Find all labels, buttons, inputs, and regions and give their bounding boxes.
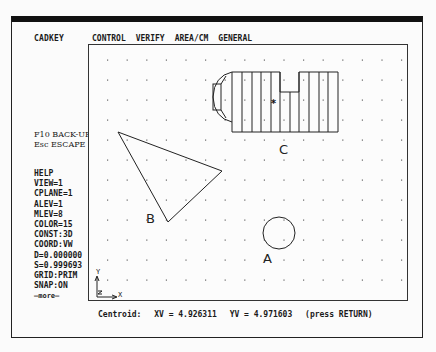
axis-x-label: X: [118, 291, 123, 299]
axis-triad-icon: [95, 276, 117, 299]
drawing-canvas: * A B C Y X: [0, 0, 436, 352]
prompt-label: Centroid:: [98, 310, 141, 319]
grid-dots: [107, 60, 402, 281]
label-a: A: [263, 251, 272, 266]
shape-a-circle: [263, 217, 295, 249]
prompt-line: Centroid: XV = 4.926311 YV = 4.971603 (p…: [98, 310, 381, 319]
shape-c-outline: [232, 72, 338, 132]
label-b: B: [146, 211, 155, 226]
centroid-yv: YV = 4.971603: [230, 310, 293, 319]
axis-y-label: Y: [96, 268, 101, 276]
centroid-xv: XV = 4.926311: [154, 310, 217, 319]
press-return-hint: (press RETURN): [305, 310, 372, 319]
label-c: C: [279, 142, 288, 157]
shape-c-arc: [213, 72, 232, 122]
centroid-marker-icon: *: [270, 98, 276, 109]
shape-b-triangle: [118, 132, 222, 222]
